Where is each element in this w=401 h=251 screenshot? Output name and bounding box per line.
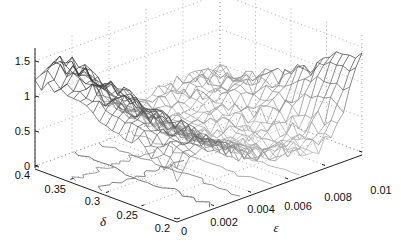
epsilon-tick-0.004: 0.004 [247, 203, 275, 215]
delta-tick-0.25: 0.25 [117, 209, 138, 221]
delta-tick-0.35: 0.35 [45, 183, 66, 195]
delta-axis-label: δ [100, 214, 107, 229]
epsilon-axis-label: ε [273, 220, 279, 235]
wireframe-surface [35, 52, 362, 182]
z-tick-1: 1 [24, 90, 30, 102]
epsilon-tick-0.008: 0.008 [324, 191, 352, 203]
z-tick-0.5: 0.5 [15, 125, 30, 137]
delta-tick-0.3: 0.3 [85, 195, 100, 207]
epsilon-tick-0: 0 [181, 225, 187, 237]
z-tick-1.5: 1.5 [15, 55, 30, 67]
delta-tick-0.2: 0.2 [155, 222, 170, 234]
epsilon-tick-0.006: 0.006 [284, 200, 312, 212]
epsilon-tick-0.002: 0.002 [210, 216, 238, 228]
delta-tick-0.4: 0.4 [15, 169, 30, 181]
plot-canvas: 0 0.5 1 1.5 0.4 0.35 0.3 0.25 0.2 0 0.00… [0, 0, 401, 251]
epsilon-tick-0.01: 0.01 [370, 184, 391, 196]
surface-plot-figure: 0 0.5 1 1.5 0.4 0.35 0.3 0.25 0.2 0 0.00… [0, 0, 401, 251]
